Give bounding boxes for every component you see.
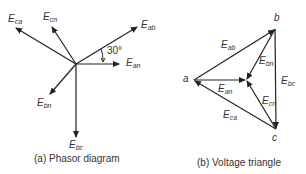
label-tri-eca: Eca	[223, 110, 237, 121]
vertex-c: c	[272, 133, 277, 143]
label-eca: Eca	[8, 14, 22, 25]
label-tri-ean: Ean	[218, 84, 232, 95]
label-eab: Eab	[141, 20, 155, 31]
triangle-ebn	[247, 29, 275, 79]
label-ean: Ean	[126, 58, 140, 69]
phasor-ebn	[50, 64, 76, 94]
triangle-ebc	[275, 29, 276, 128]
label-tri-eab: Eab	[221, 40, 235, 51]
label-tri-ecn: Ecn	[262, 96, 276, 107]
caption-phasor: (a) Phasor diagram	[34, 154, 120, 164]
label-ecn: Ecn	[43, 12, 57, 23]
label-tri-ebn: Ebn	[259, 56, 273, 67]
angle-label: 30°	[107, 46, 122, 56]
vertex-b: b	[274, 13, 280, 23]
caption-triangle: (b) Voltage triangle	[197, 158, 281, 168]
vertex-a: a	[183, 74, 189, 84]
phasor-eca	[16, 28, 76, 64]
label-tri-ebc: Ebc	[281, 76, 295, 87]
label-ebc: Ebc	[69, 140, 83, 151]
label-ebn: Ebn	[37, 98, 51, 109]
phasor-ecn	[52, 27, 76, 64]
phasor-diagram	[16, 27, 137, 137]
